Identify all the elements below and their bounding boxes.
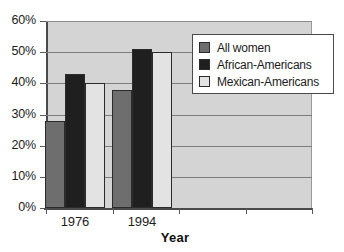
legend-item-all-women: All women bbox=[199, 39, 328, 56]
y-axis-tick-label: 50% bbox=[0, 44, 36, 58]
y-axis-tick-label: 20% bbox=[0, 138, 36, 152]
bar-chart: 0%10%20%30%40%50%60% 19761994 Year All w… bbox=[0, 0, 344, 252]
legend-label: All women bbox=[217, 41, 271, 55]
legend-swatch-icon-mexican-americans bbox=[199, 76, 210, 87]
x-axis-tick-label: 1994 bbox=[107, 214, 177, 229]
x-axis-title: Year bbox=[130, 230, 220, 245]
bar bbox=[65, 74, 85, 208]
x-axis-tick bbox=[179, 208, 180, 214]
y-axis-tick bbox=[40, 52, 46, 53]
bar bbox=[132, 49, 152, 208]
x-axis-tick bbox=[312, 208, 313, 214]
x-axis-tick-label: 1976 bbox=[40, 214, 110, 229]
y-axis-tick-label: 60% bbox=[0, 13, 36, 27]
y-axis-tick-label: 0% bbox=[0, 200, 36, 214]
gridline bbox=[46, 21, 312, 22]
y-axis-tick-label: 30% bbox=[0, 107, 36, 121]
legend-item-mexican-americans: Mexican-Americans bbox=[199, 73, 328, 90]
legend-label: Mexican-Americans bbox=[217, 75, 319, 89]
bar bbox=[112, 90, 132, 208]
legend-swatch-icon-all-women bbox=[199, 42, 210, 53]
x-axis-line bbox=[44, 208, 312, 210]
legend-item-african-americans: African-Americans bbox=[199, 56, 328, 73]
bar bbox=[45, 121, 65, 208]
y-axis-tick bbox=[40, 115, 46, 116]
y-axis-tick bbox=[40, 83, 46, 84]
bar bbox=[152, 52, 172, 208]
bar bbox=[85, 83, 105, 208]
legend-label: African-Americans bbox=[217, 58, 312, 72]
y-axis-tick bbox=[40, 21, 46, 22]
x-axis-tick bbox=[246, 208, 247, 214]
y-axis-tick-label: 40% bbox=[0, 75, 36, 89]
legend-swatch-icon-african-americans bbox=[199, 59, 210, 70]
chart-legend: All women African-Americans Mexican-Amer… bbox=[192, 34, 334, 94]
y-axis-tick-label: 10% bbox=[0, 169, 36, 183]
